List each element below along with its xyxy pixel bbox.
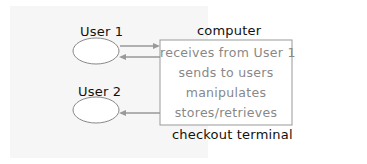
function-sends: sends to users (160, 65, 292, 80)
arrow-head-right-icon (153, 43, 160, 49)
user1-label: User 1 (80, 24, 123, 39)
user2-ellipse (73, 97, 119, 123)
function-stores: stores/retrieves (160, 105, 292, 120)
user2-label: User 2 (78, 84, 121, 99)
arrow-head-left-icon (119, 54, 126, 60)
arrow-head-left-icon (119, 110, 126, 116)
function-receives: receives from User 1 (160, 45, 292, 60)
computer-title: computer (197, 23, 261, 38)
function-manipulates: manipulates (160, 85, 292, 100)
system-caption: checkout terminal (172, 127, 293, 142)
user1-ellipse (73, 38, 119, 64)
